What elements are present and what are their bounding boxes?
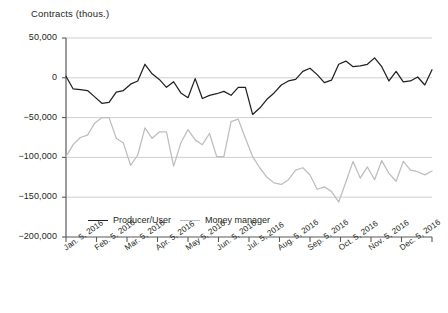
chart-container: Contracts (thous.) 50,0000−50,000−100,00… [0,0,448,313]
legend-label-producer-user: Producer/User [113,215,171,225]
y-tick-label: 0 [0,72,57,82]
y-tick-label: 50,000 [0,32,57,42]
y-tick-label: −150,000 [0,191,57,201]
y-tick-label: −100,000 [0,151,57,161]
series-line-money-manager [66,118,432,202]
legend-swatch-producer-user-icon [88,220,108,221]
chart-plot-area [0,0,448,313]
y-tick-label: −50,000 [0,112,57,122]
legend-swatch-money-manager-icon [180,220,200,221]
series-line-producer-user [66,58,432,115]
legend-item-producer-user: Producer/User [88,215,171,225]
y-tick-label: −200,000 [0,231,57,241]
legend-label-money-manager: Money manager [205,215,270,225]
legend-item-money-manager: Money manager [180,215,270,225]
chart-legend: Producer/User Money manager [88,215,270,225]
